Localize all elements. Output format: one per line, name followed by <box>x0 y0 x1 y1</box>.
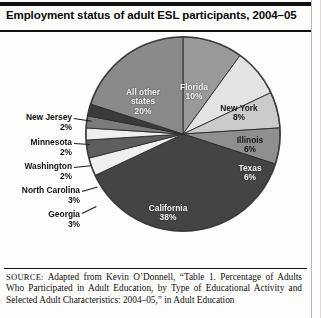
slice-label-minnesota: Minnesota 2% <box>6 138 72 157</box>
slice-label-california: California 38% <box>137 204 199 223</box>
slice-label-washington: Washington 2% <box>2 162 72 181</box>
source-prefix: SOURCE: <box>6 272 44 282</box>
source-note: SOURCE: Adapted from Kevin O’Donnell, “T… <box>6 272 302 306</box>
source-text: Adapted from Kevin O’Donnell, “Table 1. … <box>6 272 302 305</box>
slice-label-north-carolina: North Carolina 3% <box>0 186 80 205</box>
page-gutter-rule <box>311 0 312 318</box>
title-rule-top <box>0 2 311 6</box>
figure-page: Employment status of adult ESL participa… <box>0 0 321 318</box>
title-rule-bottom <box>0 30 311 32</box>
slice-label-texas: Texas 6% <box>228 164 272 183</box>
slice-label-all-other-states: All other states 20% <box>112 88 174 116</box>
pie-chart: All other states 20% Florida 10% New Yor… <box>0 33 311 266</box>
slice-label-florida: Florida 10% <box>170 83 218 102</box>
slice-label-illinois: Illinois 6% <box>226 136 274 155</box>
figure-title: Employment status of adult ESL participa… <box>6 9 306 21</box>
slice-label-new-jersey: New Jersey 2% <box>2 113 72 132</box>
slice-label-georgia: Georgia 3% <box>20 210 80 229</box>
slice-label-new-york: New York 8% <box>212 104 266 123</box>
source-rule <box>4 268 307 269</box>
leader-line-minnesota <box>74 143 90 145</box>
